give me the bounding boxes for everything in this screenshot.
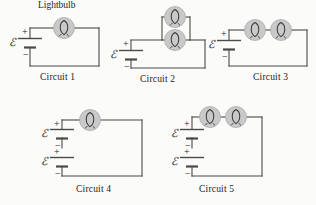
circuit-3-plus-sign: + bbox=[221, 28, 227, 39]
circuit-3-minus-sign: − bbox=[222, 51, 228, 62]
circuit-figure: ℰ + − bbox=[0, 0, 316, 205]
circuit-4-wires bbox=[62, 120, 142, 176]
circuit-5-minus-sign-2: − bbox=[185, 168, 191, 179]
circuit-4-emf-label-2: ℰ bbox=[41, 155, 49, 167]
circuit-4-battery-1 bbox=[50, 130, 74, 139]
circuit-3-bulb-1 bbox=[245, 20, 266, 41]
circuit-2-group: ℰ + − bbox=[110, 7, 205, 73]
circuit-2-emf-label: ℰ bbox=[110, 48, 118, 60]
circuit-1-group: ℰ + − bbox=[9, 18, 99, 67]
circuit-2-minus-sign: − bbox=[124, 61, 130, 72]
circuit-5-battery-1 bbox=[180, 130, 204, 139]
circuit-3-bulb-2 bbox=[271, 20, 292, 41]
circuit-3-group: ℰ + − bbox=[208, 20, 307, 67]
circuit-5-wires bbox=[192, 117, 262, 176]
circuit-4-group: ℰ ℰ + − + − bbox=[41, 110, 142, 180]
circuit-4-emf-label-1: ℰ bbox=[41, 127, 49, 139]
circuit-1-minus-sign: − bbox=[23, 49, 29, 60]
circuit-5-bulb-2 bbox=[226, 107, 247, 128]
circuit-5-emf-label-1: ℰ bbox=[171, 127, 179, 139]
circuit-1-caption: Circuit 1 bbox=[40, 72, 75, 82]
circuit-4-caption: Circuit 4 bbox=[76, 184, 111, 194]
circuit-3-wires bbox=[229, 30, 307, 66]
circuit-5-caption: Circuit 5 bbox=[199, 184, 234, 194]
circuit-5-group: ℰ ℰ + − + − bbox=[171, 107, 262, 180]
circuit-1-bulb bbox=[54, 18, 75, 39]
circuit-5-battery-2 bbox=[180, 158, 204, 167]
lightbulb-annotation-label: Lightbulb bbox=[38, 0, 75, 10]
circuit-4-minus-sign-2: − bbox=[55, 168, 61, 179]
circuit-2-bulb-top bbox=[165, 7, 186, 28]
circuit-4-plus-sign-1: + bbox=[54, 118, 60, 129]
circuit-3-caption: Circuit 3 bbox=[253, 72, 288, 82]
circuit-4-battery-2 bbox=[50, 158, 74, 167]
circuit-3-battery bbox=[217, 41, 241, 50]
circuit-1-emf-label: ℰ bbox=[9, 36, 17, 48]
circuit-diagram-canvas: ℰ + − bbox=[0, 0, 316, 205]
circuit-5-plus-sign-1: + bbox=[184, 118, 190, 129]
circuit-1-battery bbox=[18, 39, 42, 48]
circuit-2-battery bbox=[119, 51, 143, 60]
circuit-5-plus-sign-2: + bbox=[184, 146, 190, 157]
circuit-1-plus-sign: + bbox=[22, 26, 28, 37]
circuit-2-bulb-bottom bbox=[165, 30, 186, 51]
circuit-2-caption: Circuit 2 bbox=[140, 74, 175, 84]
circuit-3-emf-label: ℰ bbox=[208, 38, 216, 50]
circuit-4-bulb bbox=[80, 110, 101, 131]
circuit-5-bulb-1 bbox=[200, 107, 221, 128]
circuit-4-plus-sign-2: + bbox=[54, 146, 60, 157]
circuit-5-emf-label-2: ℰ bbox=[171, 155, 179, 167]
circuit-2-plus-sign: + bbox=[123, 38, 129, 49]
